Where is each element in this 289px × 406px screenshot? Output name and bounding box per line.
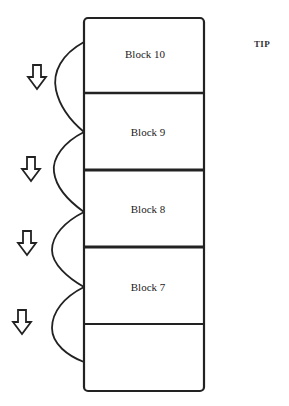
- down-arrow-icon: [13, 310, 31, 334]
- block-stack-diagram: Block 10 Block 9 Block 8 Block 7 TIP: [0, 0, 289, 406]
- tip-label: TIP: [254, 39, 270, 49]
- down-arrow-icon: [22, 157, 40, 181]
- block-9-label: Block 9: [131, 126, 166, 138]
- wave-curve-1: [55, 42, 84, 132]
- block-10-label: Block 10: [125, 48, 166, 60]
- wave-curve-4: [52, 287, 84, 362]
- block-7-label: Block 7: [131, 281, 166, 293]
- block-8-label: Block 8: [131, 203, 166, 215]
- wave-curve-3: [52, 212, 84, 287]
- wave-curve-2: [54, 132, 84, 212]
- down-arrow-icon: [18, 231, 36, 255]
- down-arrow-icon: [28, 65, 46, 89]
